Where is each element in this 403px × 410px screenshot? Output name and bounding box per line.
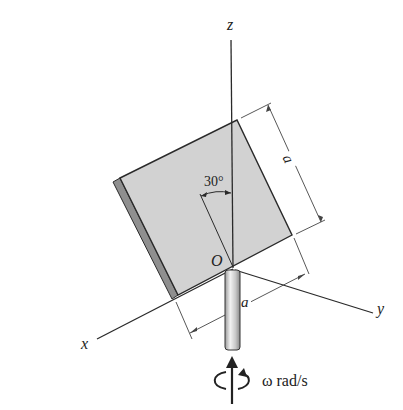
dim-ext-line [176,302,192,339]
dim-arrowhead [190,327,197,333]
dim-ext-line [294,238,309,274]
angular-velocity-label: ω rad/s [262,372,308,389]
curl-arrowhead [238,368,247,377]
dim-label-a-bottom: a [241,294,249,310]
origin-label: O [211,252,223,269]
y-axis-label: y [375,300,385,318]
x-axis-label: x [80,335,88,352]
z-axis-label: z [226,16,234,33]
shaft [225,270,240,350]
diagram-canvas: a a z x y O 30° ω rad/s [0,0,403,410]
rotation-arrowhead [226,356,238,368]
angle-label: 30° [204,174,224,189]
y-axis [235,270,373,313]
